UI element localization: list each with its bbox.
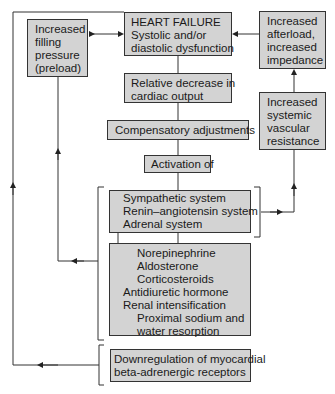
- compensatory-box: Compensatory adjustments: [107, 120, 249, 140]
- node-text: resistance: [267, 135, 318, 148]
- activation-box: Activation of: [144, 155, 211, 173]
- hormones-box: Norepinephrine Aldosterone Corticosteroi…: [109, 243, 251, 336]
- node-text: Norepinephrine: [123, 247, 250, 260]
- node-text: increased: [267, 41, 318, 54]
- node-text: diastolic dysfunction: [131, 42, 225, 55]
- preload-feedback-line: [58, 77, 98, 261]
- node-text: Increased: [35, 23, 80, 36]
- node-text: (preload): [35, 62, 80, 75]
- node-text: afterload,: [267, 28, 318, 41]
- node-text: vascular: [267, 122, 318, 135]
- node-text: Corticosteroids: [123, 273, 250, 286]
- node-text: Systolic and/or: [131, 29, 225, 42]
- node-text: systemic: [267, 109, 318, 122]
- afterload-box: Increased afterload, increased impedance: [259, 11, 326, 69]
- node-text: Activation of: [151, 158, 204, 171]
- node-text: Proximal sodium and: [123, 312, 250, 325]
- node-text: impedance: [267, 54, 318, 67]
- systems-box: Sympathetic system Renin–angiotensin sys…: [109, 190, 251, 233]
- preload-box: Increased filling pressure (preload): [27, 19, 88, 77]
- node-text: Antidiuretic hormone: [123, 286, 250, 299]
- node-text: beta-adrenergic receptors: [114, 366, 247, 379]
- node-text: Increased: [267, 15, 318, 28]
- node-text: Relative decrease in: [131, 77, 225, 90]
- downregulation-box: Downregulation of myocardial beta-adrene…: [110, 349, 251, 382]
- node-text: filling: [35, 36, 80, 49]
- node-text: Sympathetic system: [123, 192, 250, 205]
- left-bracket-systems: [98, 187, 104, 340]
- heart-failure-box: HEART FAILURE Systolic and/or diastolic …: [124, 12, 232, 56]
- node-text: Increased: [267, 96, 318, 109]
- node-text: Renal intensification: [123, 299, 250, 312]
- node-text: Downregulation of myocardial: [114, 353, 247, 366]
- heart-failure-title: HEART FAILURE: [131, 16, 225, 29]
- node-text: Compensatory adjustments: [115, 124, 241, 137]
- systemic-resistance-box: Increased systemic vascular resistance: [259, 92, 326, 150]
- node-text: Aldosterone: [123, 260, 250, 273]
- node-text: Adrenal system: [123, 218, 250, 231]
- node-text: pressure: [35, 49, 80, 62]
- left-bracket-downreg: [99, 345, 104, 385]
- node-text: Renin–angiotensin system: [123, 205, 250, 218]
- node-text: cardiac output: [131, 90, 225, 103]
- cardiac-output-box: Relative decrease in cardiac output: [124, 73, 232, 103]
- node-text: water resorption: [123, 325, 250, 338]
